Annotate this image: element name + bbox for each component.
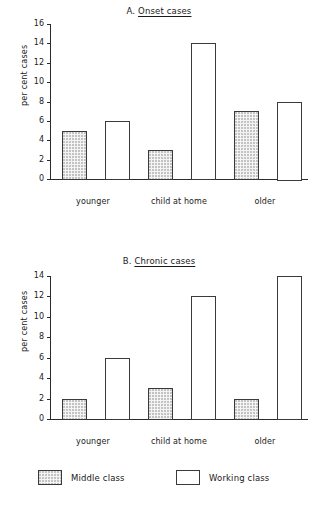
y-axis-tick-label: 12 (28, 291, 44, 300)
y-axis-tick-label: 10 (28, 77, 44, 86)
y-axis-tick (47, 378, 50, 379)
x-axis-category-label: older (222, 197, 308, 206)
y-axis-tick (47, 179, 50, 180)
chart-panel-chronic-cases: B. Chronic cases per cent cases 02468101… (0, 250, 318, 462)
plot-area-a: 0246810121416youngerchild at homeolder (50, 24, 308, 179)
y-axis-tick (47, 140, 50, 141)
y-axis-tick-label: 0 (28, 174, 44, 183)
x-axis-category-label: older (222, 437, 308, 446)
panel-title-b-prefix: B. (123, 256, 132, 266)
chart-panel-onset-cases: A. Onset cases per cent cases 0246810121… (0, 0, 318, 250)
bar-child-at-home-middle-class (148, 388, 173, 420)
bar-child-at-home-middle-class (148, 150, 173, 180)
figure: A. Onset cases per cent cases 0246810121… (0, 0, 318, 514)
plot-area-b: 02468101214youngerchild at homeolder (50, 276, 308, 419)
y-axis-line (50, 276, 51, 420)
bar-younger-middle-class (62, 399, 87, 420)
y-axis-tick (47, 63, 50, 64)
y-axis-tick (47, 24, 50, 25)
y-axis-tick (47, 82, 50, 83)
x-axis-line (50, 419, 308, 420)
bar-older-middle-class (234, 111, 259, 180)
x-axis-line (50, 179, 308, 180)
y-axis-tick-label: 8 (28, 332, 44, 341)
y-axis-tick (47, 337, 50, 338)
y-axis-tick-label: 2 (28, 155, 44, 164)
bar-child-at-home-working-class (191, 43, 216, 180)
panel-title-b: B. Chronic cases (0, 256, 318, 266)
y-axis-line (50, 24, 51, 180)
bar-older-working-class (277, 102, 302, 181)
y-axis-tick-label: 14 (28, 38, 44, 47)
y-axis-tick (47, 358, 50, 359)
y-axis-tick (47, 43, 50, 44)
bar-child-at-home-working-class (191, 296, 216, 420)
y-axis-tick-label: 6 (28, 353, 44, 362)
legend-label-working-class: Working class (209, 473, 269, 483)
y-axis-tick-label: 4 (28, 135, 44, 144)
legend-swatch-middle-class-icon (38, 470, 62, 485)
y-axis-tick-label: 4 (28, 373, 44, 382)
bar-younger-middle-class (62, 131, 87, 180)
bar-older-working-class (277, 276, 302, 420)
y-axis-tick (47, 121, 50, 122)
panel-title-a: A. Onset cases (0, 6, 318, 16)
x-axis-category-label: child at home (136, 437, 222, 446)
legend: Middle class Working class (0, 462, 318, 502)
x-axis-category-label: child at home (136, 197, 222, 206)
legend-item-working-class: Working class (176, 470, 269, 485)
y-axis-tick-label: 0 (28, 414, 44, 423)
legend-label-middle-class: Middle class (71, 473, 125, 483)
y-axis-tick-label: 10 (28, 312, 44, 321)
legend-item-middle-class: Middle class (38, 470, 125, 485)
y-axis-tick-label: 8 (28, 97, 44, 106)
legend-swatch-working-class-icon (176, 470, 200, 485)
y-axis-tick-label: 12 (28, 58, 44, 67)
panel-title-b-name: Chronic cases (134, 256, 195, 266)
y-axis-tick-label: 6 (28, 116, 44, 125)
x-axis-category-label: younger (50, 437, 136, 446)
y-axis-tick (47, 317, 50, 318)
y-axis-tick (47, 102, 50, 103)
y-axis-tick-label: 16 (28, 19, 44, 28)
y-axis-tick-label: 2 (28, 394, 44, 403)
x-axis-category-label: younger (50, 197, 136, 206)
y-axis-tick (47, 419, 50, 420)
bar-younger-working-class (105, 121, 130, 180)
panel-title-a-name: Onset cases (138, 6, 191, 16)
y-axis-tick-label: 14 (28, 271, 44, 280)
y-axis-tick (47, 399, 50, 400)
bar-older-middle-class (234, 399, 259, 420)
y-axis-tick (47, 296, 50, 297)
bar-younger-working-class (105, 358, 130, 420)
panel-title-a-prefix: A. (127, 6, 136, 16)
y-axis-tick (47, 276, 50, 277)
y-axis-tick (47, 160, 50, 161)
